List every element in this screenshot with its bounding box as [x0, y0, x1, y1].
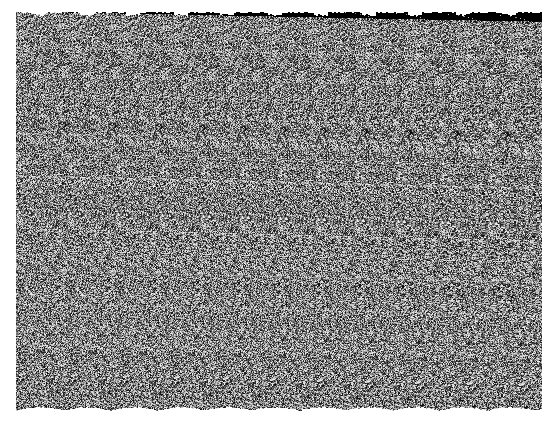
stereogram-page: Random-dot autostereogram: a rectangular… — [0, 0, 557, 425]
autostereogram-image — [16, 12, 542, 412]
